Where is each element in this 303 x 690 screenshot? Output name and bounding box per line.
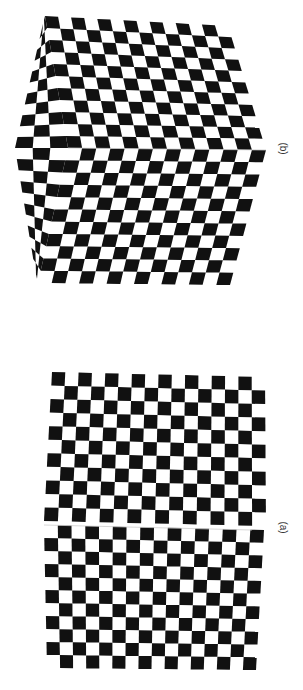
- panel-b: [0, 0, 303, 300]
- checkerboard-corner-figure: [0, 0, 303, 300]
- panel-a: [0, 345, 303, 690]
- panel-a-label: (a): [278, 521, 289, 533]
- panel-b-label: (b): [278, 142, 289, 154]
- checkerboard-planar-figure: [0, 345, 303, 690]
